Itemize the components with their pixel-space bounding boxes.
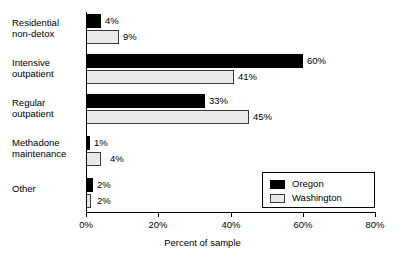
legend-item-washington: Washington (270, 191, 374, 205)
y-axis-line (86, 12, 87, 212)
bar-value-oregon-regular-outpatient: 33% (209, 94, 228, 108)
bar-value-oregon-intensive-outpatient: 60% (307, 54, 326, 68)
bar-value-oregon-residential-non-detox: 4% (105, 14, 119, 28)
x-axis-label: Percent of sample (0, 237, 405, 248)
x-tick-label-80: 80% (365, 219, 384, 230)
x-tick-0 (86, 212, 87, 217)
bar-value-oregon-methadone-maintenance: 1% (94, 136, 108, 150)
legend-item-oregon: Oregon (270, 177, 374, 191)
bar-oregon-other (86, 178, 93, 192)
x-tick-60 (303, 212, 304, 217)
x-tick-80 (375, 212, 376, 217)
x-tick-label-0: 0% (79, 219, 93, 230)
legend: Oregon Washington (262, 172, 375, 208)
bar-value-washington-other: 2% (97, 194, 111, 208)
bar-value-oregon-other: 2% (97, 178, 111, 192)
category-label-methadone-maintenance: Methadone maintenance (12, 137, 66, 159)
legend-label-washington: Washington (292, 193, 342, 203)
bar-washington-regular-outpatient (86, 110, 249, 124)
x-tick-label-40: 40% (221, 219, 240, 230)
x-tick-20 (158, 212, 159, 217)
bar-value-washington-methadone-maintenance: 4% (110, 152, 124, 166)
x-tick-label-60: 60% (293, 219, 312, 230)
x-tick-40 (231, 212, 232, 217)
legend-swatch-oregon-icon (270, 180, 285, 189)
legend-swatch-washington-icon (270, 194, 285, 203)
bar-washington-residential-non-detox (86, 30, 119, 44)
category-label-other: Other (12, 183, 36, 194)
category-label-intensive-outpatient: Intensive outpatient (12, 57, 54, 79)
bar-oregon-intensive-outpatient (86, 54, 303, 68)
bar-value-washington-residential-non-detox: 9% (123, 30, 137, 44)
bar-oregon-residential-non-detox (86, 14, 101, 28)
bar-washington-intensive-outpatient (86, 70, 234, 84)
category-label-regular-outpatient: Regular outpatient (12, 97, 54, 119)
x-tick-label-20: 20% (148, 219, 167, 230)
legend-label-oregon: Oregon (292, 179, 324, 189)
bar-value-washington-regular-outpatient: 45% (253, 110, 272, 124)
category-label-residential-non-detox: Residential non-detox (12, 17, 59, 39)
bar-oregon-regular-outpatient (86, 94, 205, 108)
bar-chart: Residential non-detox Intensive outpatie… (0, 0, 405, 268)
bar-washington-methadone-maintenance (86, 152, 101, 166)
bar-value-washington-intensive-outpatient: 41% (238, 70, 257, 84)
